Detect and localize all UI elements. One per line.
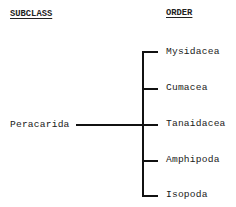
order-label-mysidacea: Mysidacea bbox=[166, 47, 220, 57]
header-subclass: SUBCLASS bbox=[10, 9, 52, 19]
order-label-amphipoda: Amphipoda bbox=[166, 155, 220, 165]
order-label-cumacea: Cumacea bbox=[166, 83, 208, 93]
branch-line-5 bbox=[142, 195, 158, 197]
branch-line-3 bbox=[142, 124, 158, 126]
branch-line-2 bbox=[142, 88, 158, 90]
branch-line-1 bbox=[142, 51, 158, 53]
header-order: ORDER bbox=[166, 8, 192, 18]
order-label-tanaidacea: Tanaidacea bbox=[166, 119, 226, 129]
branch-line-4 bbox=[142, 160, 158, 162]
order-label-isopoda: Isopoda bbox=[166, 190, 208, 200]
root-node-label: Peracarida bbox=[10, 120, 70, 130]
